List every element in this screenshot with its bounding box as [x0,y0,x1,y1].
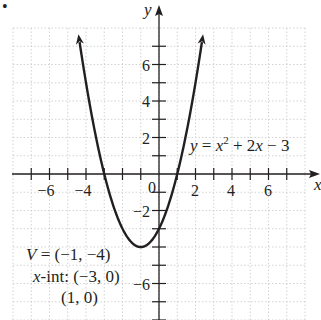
x-tick-label: −4 [74,182,91,199]
x-tick-label: 6 [264,182,272,199]
y-tick-label: −6 [133,276,150,293]
origin-label: 0 [148,179,156,196]
y-axis-label: y [142,0,152,19]
y-tick-label: 6 [142,57,150,74]
parabola-chart: −6 −4 2 4 6 6 4 2 −2 −6 0 x y y = x2 + 2… [0,0,321,320]
y-tick-label: 4 [142,93,150,110]
x-tick-label: 4 [227,182,235,199]
x-intercept-2-label: (1, 0) [61,288,98,307]
bullet: • [2,0,8,16]
equation-label: y = x2 + 2x − 3 [188,134,289,155]
x-intercepts-label: x-int: (−3, 0) [32,267,120,286]
y-tick-label: 2 [142,130,150,147]
x-tick-label: −6 [37,182,54,199]
vertex-label: V = (−1, −4) [26,245,110,264]
x-tick-label: 2 [191,182,199,199]
x-axis-label: x [313,175,321,194]
y-tick-label: −2 [133,203,150,220]
